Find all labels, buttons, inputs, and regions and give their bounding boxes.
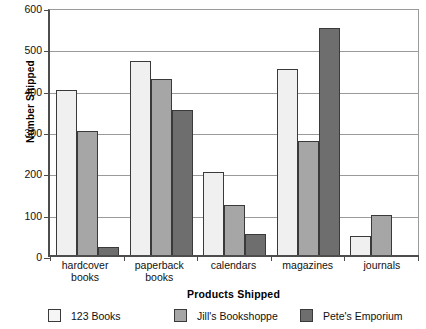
bar[interactable] [245,234,266,255]
x-axis-tick-label-line: magazines [271,260,345,272]
bar[interactable] [224,205,245,255]
bar[interactable] [319,28,340,255]
bar-group [344,10,418,255]
bar-group-bars [197,10,271,255]
bar-groups [50,10,418,255]
legend-item-label: 123 Books [71,310,121,322]
x-axis-title: Products Shipped [48,288,419,300]
bar[interactable] [371,215,392,256]
y-axis-tick-label: 300 [12,128,42,138]
bar[interactable] [130,61,151,255]
bar[interactable] [277,69,298,255]
bar-group [197,10,271,255]
x-axis-tick-label-line: journals [345,260,419,272]
x-axis-tick-label-line: calendars [196,260,270,272]
y-axis-tickmark [44,93,50,94]
bar-group [50,10,124,255]
bar-group [271,10,345,255]
legend-swatch-123-books [48,309,61,322]
bar[interactable] [77,131,98,255]
legend-item[interactable]: Pete's Emporium [300,309,426,322]
legend-item-label: Pete's Emporium [323,310,403,322]
y-axis-tickmark [44,258,50,259]
bar[interactable] [56,90,77,255]
x-axis-tick-label-line: books [48,272,122,284]
y-axis-tick-label: 100 [12,211,42,221]
x-axis-tick-label: paperbackbooks [122,260,196,283]
plot-area [48,9,419,257]
x-axis-tick-label-line: hardcover [48,260,122,272]
bar[interactable] [350,236,371,255]
y-axis-tickmark [44,51,50,52]
bar-group-bars [344,10,418,255]
x-axis-tick-labels: hardcoverbookspaperbackbookscalendarsmag… [48,260,419,283]
chart-legend: 123 BooksJill's BookshoppePete's Emporiu… [48,309,426,322]
bar-group-bars [50,10,124,255]
bar[interactable] [151,79,172,255]
y-axis-tick-label: 0 [12,252,42,262]
bar[interactable] [298,141,319,255]
bar-group-bars [124,10,198,255]
y-axis-tickmark [44,175,50,176]
y-axis-tick-label: 600 [12,4,42,14]
legend-swatch-jills-bookshoppe [174,309,187,322]
legend-item-label: Jill's Bookshoppe [197,310,278,322]
y-axis-tickmark [44,134,50,135]
x-axis-tick-label: magazines [271,260,345,283]
bar-chart: Number Shipped 0100200300400500600 hardc… [0,0,426,329]
legend-item[interactable]: Jill's Bookshoppe [174,309,300,322]
x-axis-tick-label: calendars [196,260,270,283]
y-axis-tickmark [44,217,50,218]
y-axis-tick-label: 400 [12,87,42,97]
legend-swatch-petes-emporium [300,309,313,322]
bar-group-bars [271,10,345,255]
x-axis-tick-label-line: books [122,272,196,284]
x-axis-tick-label: hardcoverbooks [48,260,122,283]
y-axis-tick-label: 200 [12,169,42,179]
bar[interactable] [98,247,119,255]
y-axis-tick-label: 500 [12,45,42,55]
y-axis-tickmark [44,10,50,11]
legend-item[interactable]: 123 Books [48,309,174,322]
bar[interactable] [172,110,193,255]
x-axis-tick-label-line: paperback [122,260,196,272]
bar-group [124,10,198,255]
x-axis-tick-label: journals [345,260,419,283]
bar[interactable] [203,172,224,255]
